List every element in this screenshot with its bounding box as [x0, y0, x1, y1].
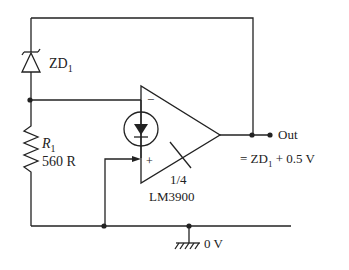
opamp-part-number: LM3900: [149, 189, 195, 204]
zener-diode-icon: [22, 49, 40, 100]
output-terminal: [267, 132, 272, 137]
feedback-wire: [31, 18, 253, 135]
resistor-value: 560 R: [42, 154, 77, 169]
resistor-icon: [24, 100, 38, 226]
zener-label: ZD1: [49, 56, 73, 74]
opamp-fraction: 1/4: [170, 172, 187, 187]
rail-junction-node: [101, 223, 106, 228]
wire-noninverting-input: [105, 159, 134, 226]
resistor-label: R1: [41, 136, 56, 154]
output-junction-node: [249, 132, 254, 137]
opamp-plus-sign: +: [146, 154, 153, 168]
output-label: Out: [278, 127, 298, 142]
ground-icon: [175, 226, 200, 249]
opamp-minus-sign: −: [147, 92, 154, 107]
circuit-diagram: ZD1 R1 560 R − + 1/4 LM3900 Out = ZD1 + …: [0, 0, 349, 270]
output-equation: = ZD1 + 0.5 V: [240, 151, 316, 169]
arrow-icon: [132, 156, 141, 162]
ground-label: 0 V: [204, 236, 224, 251]
internal-diode-icon: [124, 100, 158, 158]
